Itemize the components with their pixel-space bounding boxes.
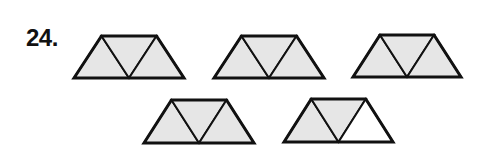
trapezoid-3 <box>353 35 461 77</box>
trapezoid-4 <box>144 100 254 143</box>
trapezoid-1 <box>74 36 184 78</box>
trapezoid-figures <box>0 0 493 153</box>
trapezoid-5 <box>284 99 393 142</box>
trapezoid-2 <box>214 36 324 78</box>
